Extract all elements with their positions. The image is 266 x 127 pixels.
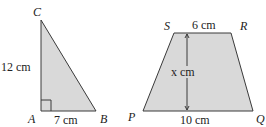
- diagram-canvas: [0, 0, 266, 127]
- vertex-p-label: P: [128, 111, 135, 123]
- vertex-q-label: Q: [256, 113, 265, 125]
- vertex-r-label: R: [240, 20, 247, 32]
- trapezoid: [143, 33, 253, 111]
- side-ab-label: 7 cm: [54, 114, 78, 126]
- height-label: x cm: [171, 66, 195, 78]
- vertex-a-label: A: [28, 113, 35, 125]
- side-ac-label: 12 cm: [1, 61, 31, 73]
- top-side-label: 6 cm: [192, 19, 216, 31]
- bottom-side-label: 10 cm: [180, 114, 210, 126]
- right-triangle: [41, 20, 96, 111]
- vertex-b-label: B: [100, 113, 107, 125]
- vertex-s-label: S: [164, 20, 170, 32]
- vertex-c-label: C: [33, 6, 41, 18]
